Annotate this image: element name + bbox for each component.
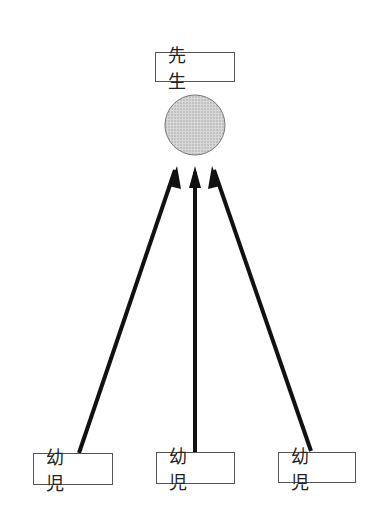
arrow-left [79,170,175,453]
child-label-right: 幼 児 [291,442,355,494]
teacher-label: 先 生 [168,41,234,93]
child-label-middle: 幼 児 [169,442,234,494]
child-label-left: 幼 児 [46,443,112,495]
child-box-right: 幼 児 [278,452,356,483]
child-box-middle: 幼 児 [156,452,235,484]
teacher-circle [165,95,225,155]
child-box-left: 幼 児 [33,453,113,485]
arrowhead-middle [189,166,201,188]
arrow-right [214,170,311,451]
teacher-label-box: 先 生 [155,52,235,82]
